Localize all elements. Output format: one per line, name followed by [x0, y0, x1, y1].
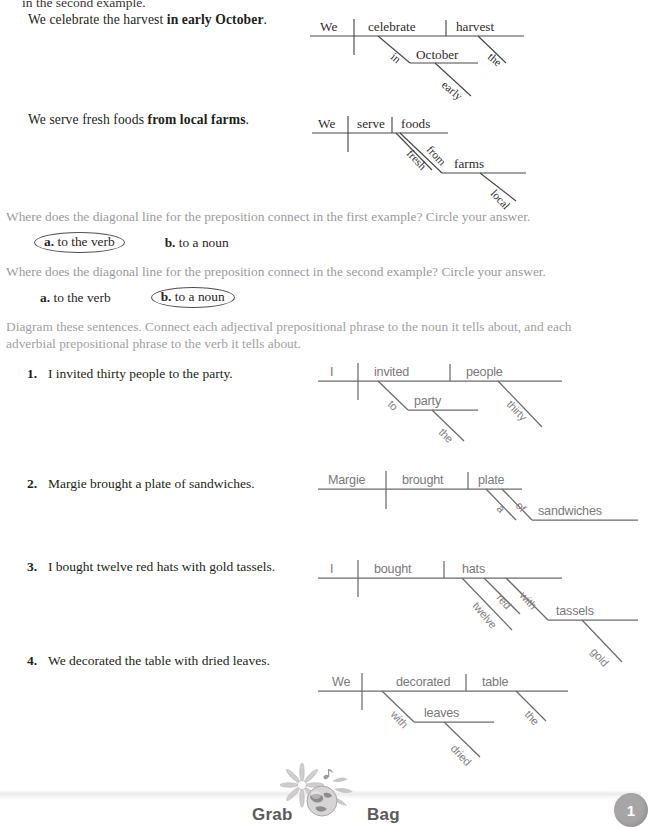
exercise-3-object: hats [462, 562, 485, 576]
question-2-option-a-letter: a. [40, 290, 50, 305]
question-1-option-a-text: to the verb [57, 234, 114, 249]
example-1-prep-object: October [416, 47, 459, 62]
question-1-option-a[interactable]: a. to the verb [34, 232, 125, 253]
example-1-subject: We [320, 19, 337, 34]
exercise-2-preposition: of [514, 499, 530, 514]
footer-label-grab: Grab [252, 805, 292, 825]
example-1-sentence-prefix: We celebrate the harvest [28, 12, 167, 27]
exercise-2-verb: brought [402, 473, 444, 487]
question-2-options: a. to the verb b. to a noun [40, 287, 235, 308]
example-1-prep-object-modifier: early [440, 78, 465, 102]
exercise-3-object-modifier-1: twelve [470, 600, 499, 631]
question-1-options: a. to the verb b. to a noun [34, 232, 229, 253]
question-1-option-b-letter: b. [165, 235, 176, 250]
exercise-2-diagram: Margie brought plate a of sandwiches [316, 462, 641, 542]
exercise-3-object-modifier-2: red [494, 592, 513, 612]
example-2-subject: We [318, 116, 335, 131]
exercise-4-sentence: We decorated the table with dried leaves… [48, 653, 270, 669]
example-2-prep-object-modifier: local [489, 187, 513, 211]
exercise-1-diagram: I invited people to party the thirty [316, 355, 576, 455]
example-2-prep-object: farms [454, 156, 484, 171]
example-2-object: foods [401, 116, 430, 131]
exercise-1-number: 1. [27, 366, 37, 382]
exercise-2-number: 2. [27, 476, 37, 492]
cut-off-text-line: in the second example. [22, 0, 146, 11]
exercise-1-object: people [466, 365, 503, 379]
exercise-3-sentence: I bought twelve red hats with gold tasse… [48, 559, 275, 575]
exercise-3-subject: I [330, 562, 333, 576]
exercise-4-subject: We [332, 675, 350, 689]
example-1-sentence-suffix: . [264, 12, 268, 27]
example-2-sentence-bold: from local farms [148, 112, 246, 127]
exercise-2-subject: Margie [328, 473, 365, 487]
footer-label-bag: Bag [367, 805, 400, 825]
example-2-diagram: We serve foods fresh from farms local [308, 106, 548, 202]
exercise-3-prep-object-modifier: gold [589, 645, 612, 668]
exercise-4-object: table [482, 675, 509, 689]
example-1-sentence: We celebrate the harvest in early Octobe… [28, 12, 267, 28]
exercise-1-object-modifier: thirty [505, 398, 530, 423]
question-2-option-a-text: to the verb [53, 290, 110, 305]
question-1-prompt: Where does the diagonal line for the pre… [6, 209, 530, 225]
exercise-1-verb: invited [374, 365, 409, 379]
exercise-1-prep-object: party [414, 394, 442, 408]
exercise-3-prep-object: tassels [556, 604, 594, 618]
exercise-4-object-modifier: the [523, 708, 542, 727]
exercise-1-prep-object-modifier: the [437, 426, 456, 445]
exercise-2-object: plate [478, 473, 505, 487]
exercise-1-subject: I [330, 365, 333, 379]
example-1-object-modifier: the [486, 50, 504, 68]
question-2-option-b-text: to a noun [175, 289, 225, 304]
example-1-diagram: We celebrate harvest in October early th… [306, 8, 536, 100]
page-number-badge: 1 [614, 793, 648, 827]
exercise-3-verb: bought [374, 562, 412, 576]
example-2-sentence: We serve fresh foods from local farms. [28, 112, 249, 128]
exercise-instructions: Diagram these sentences. Connect each ad… [6, 318, 606, 352]
exercise-4-diagram: We decorated table with leaves dried the [316, 665, 586, 765]
question-1-option-b[interactable]: b. to a noun [165, 235, 229, 251]
question-2-prompt: Where does the diagonal line for the pre… [6, 264, 546, 280]
example-1-sentence-bold: in early October [167, 12, 264, 27]
exercise-3-number: 3. [27, 559, 37, 575]
example-1-object: harvest [456, 19, 494, 34]
exercise-4-prep-object-modifier: dried [449, 742, 474, 768]
exercise-4-number: 4. [27, 653, 37, 669]
exercise-3-diagram: I bought hats twelve red with tassels go… [316, 552, 641, 667]
example-1-preposition: in [389, 50, 404, 65]
exercise-4-prep-object: leaves [424, 706, 459, 720]
question-2-option-b-letter: b. [161, 289, 172, 304]
exercise-2-sentence: Margie brought a plate of sandwiches. [48, 476, 255, 492]
exercise-4-preposition: with [388, 707, 410, 730]
question-1-option-a-letter: a. [44, 234, 54, 249]
question-2-option-b[interactable]: b. to a noun [151, 287, 235, 308]
exercise-1-sentence: I invited thirty people to the party. [48, 366, 233, 382]
exercise-2-prep-object: sandwiches [538, 504, 602, 518]
example-2-verb: serve [357, 116, 385, 131]
question-2-option-a[interactable]: a. to the verb [40, 290, 111, 306]
question-1-option-b-text: to a noun [179, 235, 229, 250]
exercise-4-verb: decorated [396, 675, 450, 689]
example-2-sentence-prefix: We serve fresh foods [28, 112, 148, 127]
example-2-sentence-suffix: . [246, 112, 250, 127]
example-1-verb: celebrate [368, 19, 416, 34]
